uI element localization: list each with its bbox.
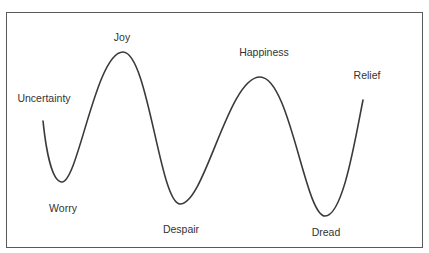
label-despair: Despair xyxy=(163,223,199,235)
label-worry: Worry xyxy=(49,202,77,214)
label-joy: Joy xyxy=(114,31,130,43)
label-relief: Relief xyxy=(354,69,381,81)
label-happiness: Happiness xyxy=(239,46,289,58)
label-uncertainty: Uncertainty xyxy=(17,92,70,104)
emotion-wave-curve xyxy=(0,0,429,253)
label-dread: Dread xyxy=(312,226,341,238)
wave-path xyxy=(43,52,363,216)
